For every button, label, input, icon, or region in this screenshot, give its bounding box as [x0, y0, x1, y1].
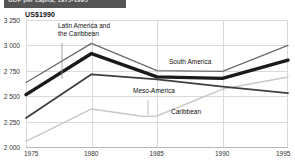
y-axis-unit-label: US$1990: [25, 11, 55, 18]
series-lines: [26, 20, 288, 147]
x-axis-tick-label: 1995: [276, 150, 290, 157]
annotation-latin-america: Latin America and the Caribbean: [58, 22, 110, 38]
x-axis-tick-label: 1980: [84, 150, 98, 157]
y-axis-tick-label: 2 000: [4, 144, 20, 151]
plot-area: 3 250 3 000 2 750 2 500 2 250 2 000 1975…: [26, 20, 288, 147]
annotation-meso-america: Meso-America: [133, 87, 175, 95]
chart-figure: GDP per capita, 1975-1995 US$1990 3 250 …: [0, 0, 295, 164]
figure-title: GDP per capita, 1975-1995: [8, 0, 88, 3]
series-line-meso-america: [26, 74, 288, 118]
annotation-south-america: South America: [169, 58, 211, 66]
x-axis-line: [26, 147, 288, 148]
y-axis-tick-label: 2 500: [4, 93, 20, 100]
x-axis-tick-label: 1990: [215, 150, 229, 157]
y-axis-tick-label: 2 250: [4, 119, 20, 126]
annotation-caribbean: Caribbean: [171, 108, 201, 116]
y-axis-tick-label: 3 250: [4, 17, 20, 24]
annotation-latin-america-line2: the Caribbean: [58, 30, 110, 38]
x-axis-tick-label: 1985: [150, 150, 164, 157]
annotation-latin-america-line1: Latin America and: [58, 22, 110, 30]
figure-title-bar: GDP per capita, 1975-1995: [4, 0, 126, 8]
y-axis-tick-label: 3 000: [4, 42, 20, 49]
y-axis-tick-label: 2 750: [4, 68, 20, 75]
x-axis-tick-label: 1975: [24, 150, 38, 157]
